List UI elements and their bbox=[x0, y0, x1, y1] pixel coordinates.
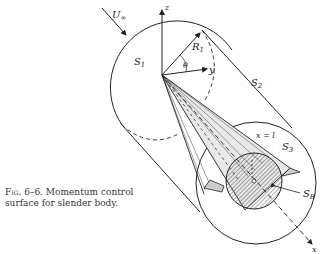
label-x: x bbox=[312, 245, 317, 254]
label-z: z bbox=[164, 3, 170, 12]
label-s2: S2 bbox=[251, 77, 263, 90]
label-s3: S3 bbox=[282, 141, 294, 154]
label-r1: R1 bbox=[191, 41, 204, 54]
x-axis bbox=[162, 75, 312, 244]
radius-r1 bbox=[162, 33, 200, 75]
caption-line2: surface for slender body. bbox=[5, 198, 118, 208]
label-s1: S1 bbox=[134, 56, 145, 69]
label-theta: θ bbox=[183, 61, 188, 70]
label-y: y bbox=[208, 64, 215, 75]
caption-prefix: Fig. bbox=[5, 187, 21, 197]
caption-number: 6–6. bbox=[24, 187, 43, 197]
figure-caption: Fig. 6–6. Momentum control surface for s… bbox=[5, 187, 185, 209]
label-sb: SB bbox=[303, 188, 315, 201]
control-surface-diagram: U∞ z y x R1 θ S1 S2 S3 SB x = l bbox=[0, 0, 327, 254]
label-station: x = l bbox=[256, 131, 275, 140]
caption-line1: Momentum control bbox=[46, 187, 134, 197]
label-u-infinity: U∞ bbox=[112, 9, 126, 22]
